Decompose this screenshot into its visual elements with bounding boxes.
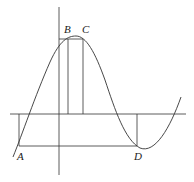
function-curve <box>13 36 181 157</box>
label-b: B <box>64 23 71 35</box>
label-a: A <box>16 150 24 162</box>
label-d: D <box>133 150 142 162</box>
label-c: C <box>82 23 90 35</box>
diagram-canvas: A B C D <box>0 0 194 182</box>
